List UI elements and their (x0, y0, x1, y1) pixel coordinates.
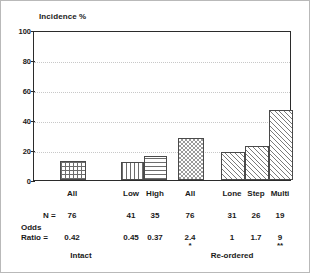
bar-reordered-multi (269, 110, 293, 181)
n-value-intact-high: 35 (151, 211, 160, 220)
y-tick-label-60: 60 (5, 87, 31, 96)
n-value-reordered-step: 26 (252, 211, 261, 220)
n-value-intact-all: 76 (68, 211, 77, 220)
n-value-reordered-lone: 31 (228, 211, 237, 220)
x-label-reordered-step: Step (247, 189, 264, 198)
y-tick-label-20: 20 (5, 147, 31, 156)
odds-value-intact-low: 0.45 (123, 233, 139, 242)
significance-reordered-multi: ** (277, 243, 283, 249)
bar-intact-high (144, 156, 167, 180)
n-row-label: N = (43, 211, 56, 220)
bar-intact-all (60, 161, 86, 181)
n-value-reordered-all: 76 (186, 211, 195, 220)
odds-label-line1: Odds (21, 223, 41, 232)
odds-value-intact-all: 0.42 (64, 233, 80, 242)
group-label-intact: Intact (70, 251, 91, 260)
x-label-reordered-lone: Lone (222, 189, 241, 198)
bar-reordered-all (178, 138, 204, 180)
bar-reordered-lone (221, 152, 245, 181)
x-label-intact-high: High (146, 189, 164, 198)
gridline-80 (34, 62, 290, 63)
odds-value-intact-high: 0.37 (147, 233, 163, 242)
y-tick-mark-0 (31, 181, 35, 182)
x-label-intact-low: Low (123, 189, 139, 198)
group-label-reordered: Re-ordered (211, 251, 254, 260)
n-value-reordered-multi: 19 (276, 211, 285, 220)
odds-label-line2: Ratio = (21, 233, 48, 242)
x-label-reordered-all: All (185, 189, 195, 198)
plot-area (33, 31, 291, 181)
y-tick-label-0: 0 (5, 177, 31, 186)
chart-figure: Incidence % 100 80 60 40 20 0 All Low Hi… (0, 0, 310, 273)
chart-title: Incidence % (39, 12, 86, 21)
odds-value-reordered-step: 1.7 (250, 233, 261, 242)
x-label-reordered-multi: Multi (271, 189, 290, 198)
bar-reordered-step (245, 146, 269, 181)
x-label-intact-all: All (67, 189, 77, 198)
y-tick-label-80: 80 (5, 57, 31, 66)
y-tick-label-40: 40 (5, 117, 31, 126)
significance-reordered-all: * (188, 243, 191, 249)
n-value-intact-low: 41 (127, 211, 136, 220)
odds-value-reordered-lone: 1 (230, 233, 234, 242)
y-tick-label-100: 100 (5, 27, 31, 36)
y-axis: 100 80 60 40 20 0 (1, 31, 31, 181)
gridline-60 (34, 92, 290, 93)
gridline-40 (34, 122, 290, 123)
bar-intact-low (121, 162, 144, 180)
